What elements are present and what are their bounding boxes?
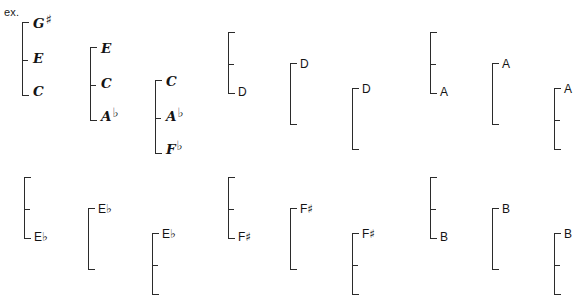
bracket-group: D [290,63,350,125]
flat-accidental-icon: ♭ [112,105,119,120]
note-letter: A [502,57,510,71]
square-bracket [554,88,561,150]
note-letter: C [33,83,44,99]
bracket-middle-tick [152,265,158,266]
square-bracket [22,22,29,96]
square-bracket [155,80,162,154]
bracket-middle-tick [90,85,96,86]
note-letter: D [238,85,247,99]
bracket-group: ECA♭ [90,47,150,121]
note-label: D [238,86,247,98]
bracket-middle-tick [22,60,28,61]
bracket-group: B [554,233,587,295]
note-letter: E [98,202,106,216]
note-label: F♯ [362,228,375,240]
flat-accidental-icon: ♭ [177,138,184,153]
flat-accidental-icon: ♭ [106,202,112,216]
bracket-middle-tick [554,265,560,266]
note-letter: E [34,230,42,244]
bracket-middle-tick [228,64,234,65]
note-label: E [33,52,44,66]
sharp-accidental-icon: ♯ [46,12,53,27]
bracket-group: G♯EC [22,22,82,96]
note-label: E♭ [162,228,176,240]
square-bracket [430,177,437,239]
note-letter: D [300,57,309,71]
note-letter: D [362,82,371,96]
note-letter: B [502,202,510,216]
bracket-group: E♭ [152,233,212,295]
square-bracket [228,177,235,239]
square-bracket [88,208,95,270]
square-bracket [492,208,499,270]
bracket-group: CA♭F♭ [155,80,215,154]
note-label: C [166,75,177,89]
note-letter: E [162,227,170,241]
note-label: F♭ [166,143,183,157]
square-bracket [554,233,561,295]
note-letter: A [440,85,448,99]
bracket-group: A [554,88,587,150]
bracket-middle-tick [430,64,436,65]
sharp-accidental-icon: ♯ [369,227,375,241]
note-label: E [101,42,112,56]
bracket-group: D [228,32,288,94]
bracket-group: A [430,32,490,94]
note-letter: C [101,75,112,91]
diagram-canvas: ex. G♯ECECA♭CA♭F♭DDDAAAE♭E♭E♭F♯F♯F♯BBB [0,0,587,306]
note-label: D [362,83,371,95]
bracket-group: E♭ [24,177,84,239]
square-bracket [352,233,359,295]
note-label: A♭ [166,110,184,124]
note-label: A [564,83,572,95]
note-label: C [33,85,44,99]
square-bracket [352,88,359,150]
note-label: B [440,231,448,243]
note-label: A [440,86,448,98]
square-bracket [228,32,235,94]
bracket-middle-tick [430,209,436,210]
note-letter: E [101,40,112,56]
note-label: C [101,77,112,91]
bracket-group: B [492,208,552,270]
bracket-middle-tick [155,118,161,119]
note-label: F♯ [238,231,251,243]
note-letter: G [33,15,45,31]
note-label: F♯ [300,203,313,215]
bracket-group: F♯ [228,177,288,239]
bracket-group: E♭ [88,208,148,270]
note-letter: A [166,108,177,124]
flat-accidental-icon: ♭ [42,230,48,244]
note-label: D [300,58,309,70]
note-letter: A [564,82,572,96]
square-bracket [430,32,437,94]
square-bracket [290,208,297,270]
square-bracket [90,47,97,121]
note-label: G♯ [33,17,52,31]
bracket-group: D [352,88,412,150]
bracket-group: B [430,177,490,239]
note-letter: B [440,230,448,244]
bracket-middle-tick [352,265,358,266]
bracket-middle-tick [228,209,234,210]
square-bracket [290,63,297,125]
flat-accidental-icon: ♭ [177,105,184,120]
note-letter: C [166,73,177,89]
square-bracket [24,177,31,239]
note-label: E♭ [98,203,112,215]
bracket-middle-tick [24,209,30,210]
flat-accidental-icon: ♭ [170,227,176,241]
example-label: ex. [4,6,19,18]
note-label: A♭ [101,110,119,124]
bracket-group: A [492,63,552,125]
note-label: B [564,228,572,240]
sharp-accidental-icon: ♯ [307,202,313,216]
sharp-accidental-icon: ♯ [245,230,251,244]
square-bracket [152,233,159,295]
bracket-group: F♯ [352,233,412,295]
note-label: A [502,58,510,70]
note-letter: B [564,227,572,241]
note-letter: A [101,108,112,124]
bracket-middle-tick [554,120,560,121]
note-label: B [502,203,510,215]
